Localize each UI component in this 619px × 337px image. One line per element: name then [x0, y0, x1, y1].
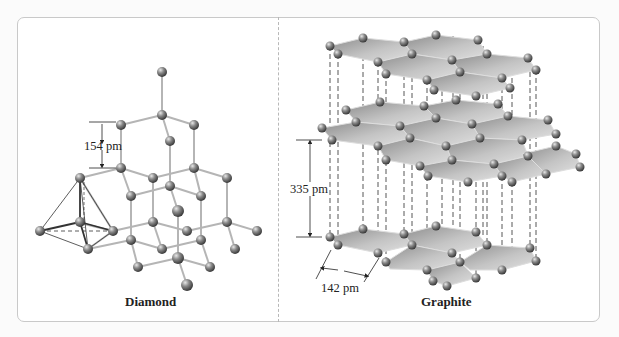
graphite-structure: 335 pm 142 pm: [290, 31, 585, 296]
diamond-atoms: [35, 67, 262, 291]
diamond-caption: Diamond: [125, 294, 176, 310]
graphite-bond-length-label: 142 pm: [321, 281, 359, 295]
interlayer-spacing-label: 335 pm: [290, 182, 328, 196]
bond-length-dimension-142: [316, 250, 379, 282]
diamond-bond-length-label: 154 pm: [84, 139, 122, 153]
diamond-structure: 154 pm: [35, 67, 262, 291]
graphite-layer-middle: [322, 100, 580, 182]
graphite-caption: Graphite: [421, 294, 472, 310]
structure-illustrations: 154 pm: [0, 0, 619, 337]
